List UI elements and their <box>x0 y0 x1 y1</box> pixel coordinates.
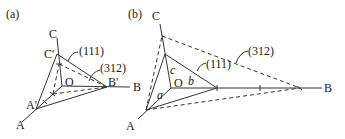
panel-a: (a) C C' O B' B A' A (111) (312) <box>6 7 141 132</box>
plane-312-edge-ab <box>146 88 300 110</box>
leader-111 <box>197 63 206 71</box>
label-unit-c: c <box>170 63 176 77</box>
axis-c <box>57 38 62 86</box>
label-a: A <box>16 118 25 132</box>
label-a: A <box>126 119 135 133</box>
leader-312 <box>236 51 248 63</box>
panel-b: (b) C O B A a b c (111) (312) <box>126 7 332 133</box>
label-c: C <box>152 9 160 23</box>
plane-111-edge-ab <box>36 87 107 109</box>
label-plane-111: (111) <box>206 57 231 71</box>
label-plane-312: (312) <box>100 61 126 75</box>
miller-indices-diagram: (a) C C' O B' B A' A (111) (312) (b) <box>0 0 345 139</box>
label-b-prime: B' <box>108 75 118 89</box>
label-o: O <box>174 76 183 90</box>
plane-312-edge-ab <box>53 87 107 94</box>
panel-a-label: (a) <box>6 7 19 21</box>
plane-111-edge-ac <box>36 54 57 109</box>
label-a-prime: A' <box>26 98 37 112</box>
axis-c <box>160 24 171 88</box>
label-c: C <box>49 27 57 41</box>
label-plane-312: (312) <box>248 44 274 58</box>
label-c-prime: C' <box>44 47 54 61</box>
label-unit-b: b <box>188 74 194 88</box>
leader-111 <box>68 52 78 61</box>
label-b: B <box>133 80 141 94</box>
label-b: B <box>324 81 332 95</box>
label-plane-111: (111) <box>79 44 104 58</box>
label-o: O <box>65 75 74 89</box>
panel-b-label: (b) <box>128 7 142 21</box>
label-unit-a: a <box>157 88 163 102</box>
